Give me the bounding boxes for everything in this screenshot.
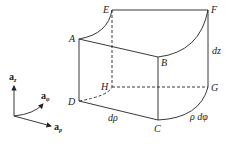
- edge-AB: [79, 39, 158, 57]
- axis-label-aphi: aφ: [41, 90, 50, 102]
- axis-label-az: az: [9, 71, 17, 83]
- dim-label-drho: dρ: [108, 112, 118, 123]
- dim-label-rho-dphi: ρ dφ: [189, 111, 208, 122]
- edge-DC: [79, 101, 158, 120]
- axis-phi-arrow: [14, 104, 43, 116]
- cylindrical-volume-diagram: E F A B H G D C dz dρ ρ dφ az aφ aρ: [0, 0, 228, 144]
- vertex-label-A: A: [68, 33, 76, 44]
- axis-label-arho: aρ: [54, 121, 62, 133]
- vertex-label-E: E: [102, 4, 109, 15]
- vertex-label-F: F: [210, 4, 218, 15]
- vertex-label-D: D: [67, 96, 76, 107]
- vertex-label-H: H: [100, 81, 109, 92]
- axis-rho-arrow: [14, 116, 51, 126]
- arc-BF: [158, 10, 208, 57]
- vertex-label-C: C: [154, 123, 161, 134]
- vertex-label-B: B: [161, 57, 167, 68]
- dim-label-dz: dz: [212, 45, 221, 56]
- vertex-label-G: G: [211, 82, 218, 93]
